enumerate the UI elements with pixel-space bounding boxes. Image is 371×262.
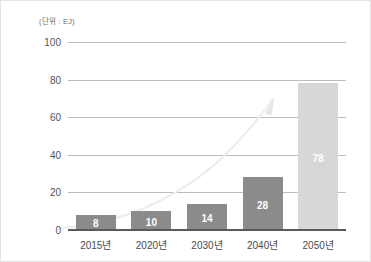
y-axis-tick-label: 60 [50, 112, 61, 123]
x-axis-tick-label: 2040년 [247, 237, 278, 252]
y-axis-tick-label: 100 [44, 37, 61, 48]
bar: 28 [243, 177, 283, 230]
chart-figure: (단위 : EJ) 82015년102020년142030년282040년782… [0, 0, 371, 262]
y-axis-tick-label: 80 [50, 74, 61, 85]
bar-value-label: 78 [298, 153, 338, 164]
bar-group: 142030년 [179, 42, 235, 230]
bar-value-label: 10 [131, 217, 171, 228]
y-axis-tick-label: 20 [50, 187, 61, 198]
x-axis-tick-label: 2030년 [191, 237, 222, 252]
unit-label: (단위 : EJ) [39, 15, 75, 26]
y-axis-tick-label: 40 [50, 149, 61, 160]
bar-group: 102020년 [124, 42, 180, 230]
bar: 8 [76, 215, 116, 230]
bar-group: 82015년 [68, 42, 124, 230]
bar-value-label: 28 [243, 200, 283, 211]
x-axis-tick-label: 2015년 [80, 237, 111, 252]
bar-value-label: 14 [187, 213, 227, 224]
bar-group: 782050년 [290, 42, 346, 230]
bar-series: 82015년102020년142030년282040년782050년 [68, 42, 346, 230]
bar: 10 [131, 211, 171, 230]
x-axis-tick-label: 2050년 [303, 237, 334, 252]
x-axis-tick-label: 2020년 [136, 237, 167, 252]
bar: 14 [187, 204, 227, 230]
x-axis-line [68, 229, 346, 231]
bar-group: 282040년 [235, 42, 291, 230]
y-axis-tick-label: 0 [55, 225, 61, 236]
plot-area: 82015년102020년142030년282040년782050년 02040… [68, 42, 346, 230]
bar-value-label: 8 [76, 218, 116, 229]
bar: 78 [298, 83, 338, 230]
